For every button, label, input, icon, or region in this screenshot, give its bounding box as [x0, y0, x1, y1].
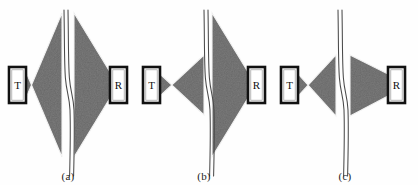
- transmitter-probe-a[interactable]: T: [9, 67, 26, 103]
- receiver-label-c: R: [393, 79, 401, 91]
- transmitter-probe-c[interactable]: T: [281, 67, 298, 103]
- panel-b-diagram: T R: [136, 0, 272, 185]
- panel-a-caption: (a): [0, 170, 136, 183]
- panel-c-caption: (c): [272, 170, 418, 183]
- panel-b-caption: (b): [136, 170, 272, 183]
- transmitter-probe-b[interactable]: T: [143, 67, 160, 103]
- transmitter-label-a: T: [14, 79, 21, 91]
- panel-b: T R (b): [136, 0, 272, 185]
- panel-a-diagram: T R: [0, 0, 136, 185]
- receiver-label-b: R: [253, 79, 261, 91]
- figure-root: T R (a): [0, 0, 418, 185]
- receiver-label-a: R: [115, 79, 123, 91]
- transmitter-label-c: T: [286, 79, 293, 91]
- panel-a: T R (a): [0, 0, 136, 185]
- receiver-probe-c[interactable]: R: [388, 67, 405, 103]
- transmitter-label-b: T: [148, 79, 155, 91]
- panel-c: T R (c): [272, 0, 418, 185]
- panel-c-diagram: T R: [272, 0, 418, 185]
- receiver-probe-b[interactable]: R: [248, 67, 265, 103]
- receiver-probe-a[interactable]: R: [110, 67, 127, 103]
